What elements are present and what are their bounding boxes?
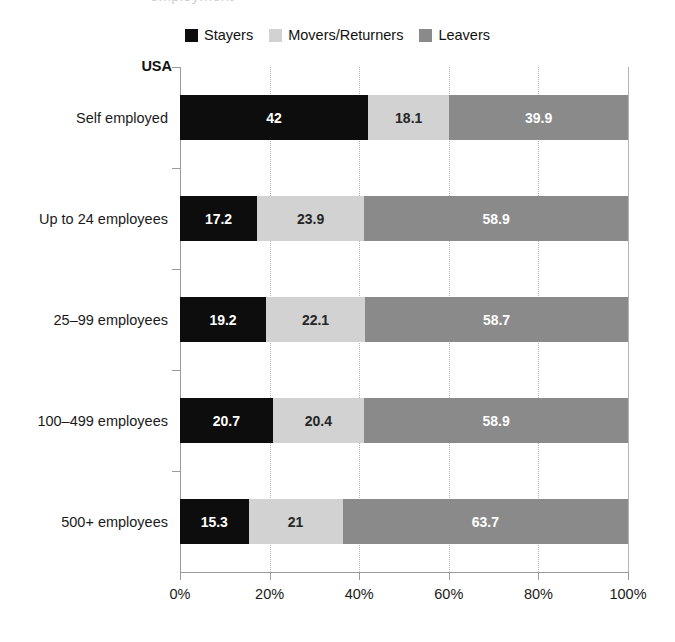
- category-label-container: Up to 24 employees: [0, 196, 168, 241]
- category-label-container: 500+ employees: [0, 499, 168, 544]
- bar-segment-stayers: 20.7: [180, 398, 273, 443]
- bar-segment-value: 58.9: [482, 414, 509, 428]
- x-axis-tick-label: 60%: [434, 586, 463, 602]
- category-label: 100–499 employees: [37, 413, 168, 429]
- bar-segment-value: 19.2: [209, 313, 236, 327]
- category-label-container: 25–99 employees: [0, 297, 168, 342]
- category-label-container: 100–499 employees: [0, 398, 168, 443]
- bar-segment-stayers: 17.2: [180, 196, 257, 241]
- bar-segment-movers-returners: 23.9: [257, 196, 364, 241]
- bar-segment-movers-returners: 22.1: [266, 297, 365, 342]
- bar-segment-movers-returners: 21: [249, 499, 343, 544]
- plot-area: Self employed4218.139.9Up to 24 employee…: [180, 67, 628, 572]
- bar-segment-value: 18.1: [395, 111, 422, 125]
- bar-row: Self employed4218.139.9: [180, 95, 628, 140]
- y-axis-tick: [172, 370, 180, 371]
- y-axis-tick: [172, 471, 180, 472]
- bar-segment-value: 20.7: [213, 414, 240, 428]
- x-axis-tick-label: 0%: [170, 586, 191, 602]
- x-axis-tick: [270, 572, 271, 580]
- bar-row: Up to 24 employees17.223.958.9: [180, 196, 628, 241]
- bar-segment-stayers: 19.2: [180, 297, 266, 342]
- bar-segment-value: 42: [266, 111, 282, 125]
- x-axis-tick: [628, 572, 629, 580]
- x-axis-tick: [449, 572, 450, 580]
- bar-segment-value: 23.9: [297, 212, 324, 226]
- bar-segment-stayers: 15.3: [180, 499, 249, 544]
- y-axis-tick: [172, 269, 180, 270]
- bar-segment-value: 58.7: [483, 313, 510, 327]
- bar-segment-value: 22.1: [302, 313, 329, 327]
- x-axis-tick: [180, 572, 181, 580]
- bar-segment-value: 20.4: [305, 414, 332, 428]
- x-axis-tick-label: 20%: [255, 586, 284, 602]
- bar-segment-value: 39.9: [525, 111, 552, 125]
- bar-row: 25–99 employees19.222.158.7: [180, 297, 628, 342]
- bar-segment-leavers: 58.9: [364, 398, 628, 443]
- bar-segment-movers-returners: 18.1: [368, 95, 449, 140]
- category-label: 25–99 employees: [54, 312, 168, 328]
- bar-segment-value: 21: [288, 515, 304, 529]
- y-axis-tick: [172, 67, 180, 68]
- bar-segment-value: 15.3: [201, 515, 228, 529]
- x-axis-tick: [359, 572, 360, 580]
- x-axis-tick: [538, 572, 539, 580]
- bar-segment-leavers: 58.7: [365, 297, 628, 342]
- x-axis-tick-label: 40%: [345, 586, 374, 602]
- x-axis-line: [180, 572, 629, 573]
- category-label: Up to 24 employees: [39, 211, 168, 227]
- group-label-container: USA: [0, 58, 172, 76]
- bar-segment-value: 58.9: [482, 212, 509, 226]
- y-axis-tick: [172, 168, 180, 169]
- x-axis-tick-label: 100%: [609, 586, 646, 602]
- bar-row: 500+ employees15.32163.7: [180, 499, 628, 544]
- stacked-bar-chart: USA Self employed4218.139.9Up to 24 empl…: [0, 0, 675, 642]
- bar-segment-leavers: 39.9: [449, 95, 628, 140]
- category-label: Self employed: [76, 110, 168, 126]
- group-label-usa: USA: [141, 58, 172, 74]
- bar-segment-leavers: 63.7: [343, 499, 628, 544]
- bar-segment-leavers: 58.9: [364, 196, 628, 241]
- bar-segment-stayers: 42: [180, 95, 368, 140]
- bar-segment-value: 17.2: [205, 212, 232, 226]
- gridline: [628, 67, 630, 572]
- x-axis-tick-label: 80%: [524, 586, 553, 602]
- bar-segment-value: 63.7: [472, 515, 499, 529]
- bar-segment-movers-returners: 20.4: [273, 398, 364, 443]
- bar-row: 100–499 employees20.720.458.9: [180, 398, 628, 443]
- category-label: 500+ employees: [61, 514, 168, 530]
- category-label-container: Self employed: [0, 95, 168, 140]
